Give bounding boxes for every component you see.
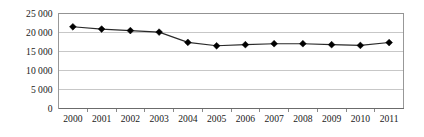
x-tick-label: 2002 bbox=[121, 113, 140, 124]
x-tick-label: 2001 bbox=[92, 113, 111, 124]
x-tick-label: 2005 bbox=[207, 113, 226, 124]
y-tick-label: 20 000 bbox=[26, 27, 53, 38]
x-tick-label: 2003 bbox=[150, 113, 169, 124]
x-tick-label: 2010 bbox=[351, 113, 370, 124]
y-tick-label: 15 000 bbox=[26, 46, 53, 57]
y-tick-label: 25 000 bbox=[26, 8, 53, 19]
chart-canvas: 05 00010 00015 00020 00025 0002000200120… bbox=[0, 0, 424, 137]
y-tick-label: 5 000 bbox=[31, 84, 53, 95]
x-tick-label: 2011 bbox=[380, 113, 399, 124]
x-tick-label: 2007 bbox=[265, 113, 284, 124]
x-tick-label: 2008 bbox=[293, 113, 312, 124]
x-tick-label: 2000 bbox=[63, 113, 82, 124]
x-tick-label: 2009 bbox=[322, 113, 341, 124]
y-tick-label: 0 bbox=[48, 103, 53, 114]
x-tick-label: 2006 bbox=[236, 113, 255, 124]
line-chart: 05 00010 00015 00020 00025 0002000200120… bbox=[0, 0, 424, 137]
x-tick-label: 2004 bbox=[178, 113, 197, 124]
y-tick-label: 10 000 bbox=[26, 65, 53, 76]
